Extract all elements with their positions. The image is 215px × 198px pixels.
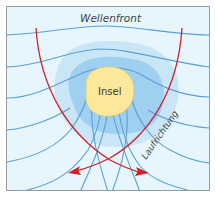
wave-refraction-diagram: Wellenfront Insel Laufrichtung [0,0,215,198]
island-label: Insel [98,86,121,97]
wavefront-label: Wellenfront [80,12,142,24]
